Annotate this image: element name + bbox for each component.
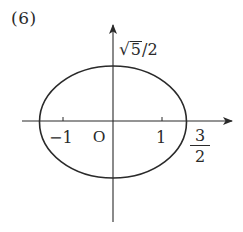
x-intercept-fraction: 3 2 — [190, 127, 210, 165]
ellipse-diagram — [0, 0, 243, 232]
y-intercept-label: √5 /2 — [119, 40, 158, 59]
y-intercept-denominator: /2 — [142, 40, 158, 59]
tick-label-pos-one: 1 — [156, 129, 166, 147]
sqrt-sign: √ — [119, 40, 130, 58]
fraction-denominator: 2 — [191, 148, 209, 165]
tick-label-neg-one: −1 — [49, 129, 73, 147]
origin-label: O — [93, 128, 105, 146]
sqrt-expression: √5 — [119, 40, 142, 58]
fraction-numerator: 3 — [191, 127, 209, 144]
fraction-bar — [190, 145, 210, 146]
sqrt-radicand: 5 — [130, 41, 142, 58]
